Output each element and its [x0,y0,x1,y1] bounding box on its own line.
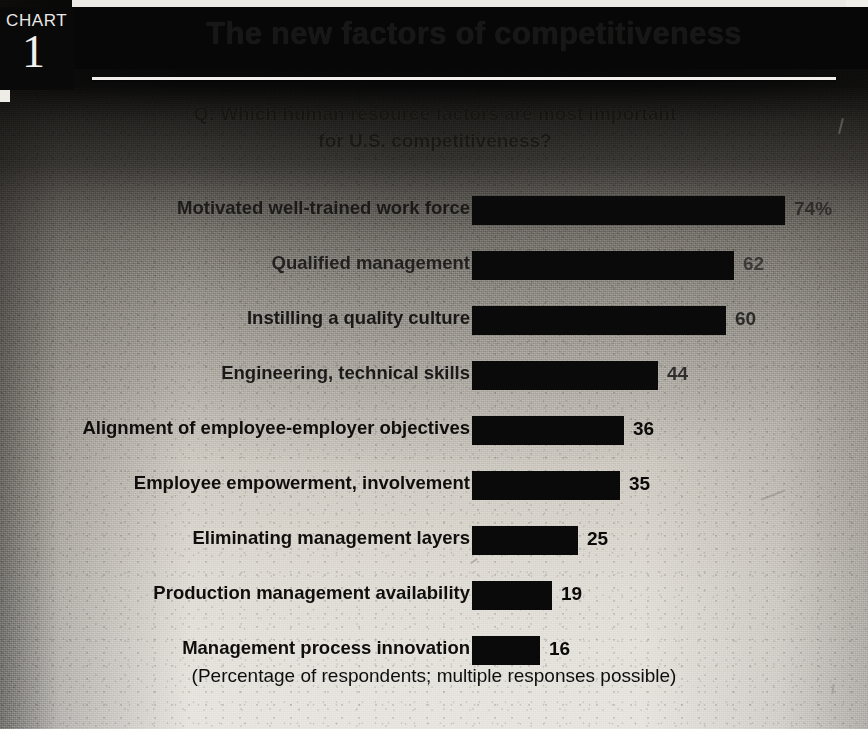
bar-rows: Motivated well-trained work force74%Qual… [0,193,868,688]
bar-value-label: 25 [587,524,608,554]
page-edge-left [0,88,10,102]
bar-value-label: 16 [549,634,570,664]
chart-number-badge: CHART 1 [0,7,74,90]
bar-category-label: Instilling a quality culture [50,303,470,333]
bar [472,636,540,665]
bar [472,306,726,335]
bar-category-label: Motivated well-trained work force [50,193,470,223]
chart-footnote: (Percentage of respondents; multiple res… [0,665,868,687]
bar-value-label: 35 [629,469,650,499]
bar-category-label: Employee empowerment, involvement [50,468,470,498]
bar [472,526,578,555]
bar-value-label: 19 [561,579,582,609]
title-underline-rule [92,77,836,80]
subtitle-line-1: Q: Which human resource factors are most… [120,100,750,127]
bar-value-label: 62 [743,249,764,279]
chart-badge-number: 1 [22,29,45,75]
bar-value-label: 74% [794,194,832,224]
chart-figure: CHART 1 The new factors of competitivene… [0,0,868,729]
bar [472,416,624,445]
bar-row: Eliminating management layers25 [0,523,868,578]
bar-category-label: Production management availability [50,578,470,608]
bar-row: Employee empowerment, involvement35 [0,468,868,523]
bar-category-label: Engineering, technical skills [50,358,470,388]
bar-value-label: 36 [633,414,654,444]
bar [472,581,552,610]
bar-value-label: 44 [667,359,688,389]
bar-row: Qualified management62 [0,248,868,303]
bar-row: Engineering, technical skills44 [0,358,868,413]
bar [472,361,658,390]
bar-value-label: 60 [735,304,756,334]
bar [472,196,785,225]
subtitle-line-2: for U.S. competitiveness? [120,127,750,154]
chart-question-subtitle: Q: Which human resource factors are most… [120,100,750,154]
bar-category-label: Eliminating management layers [50,523,470,553]
page-edge-top [72,0,868,7]
bar-category-label: Qualified management [50,248,470,278]
bar-category-label: Management process innovation [50,633,470,663]
bar-row: Alignment of employee-employer objective… [0,413,868,468]
bar-row: Instilling a quality culture60 [0,303,868,358]
bar-category-label: Alignment of employee-employer objective… [50,413,470,443]
bar-row: Production management availability19 [0,578,868,633]
bar-row: Motivated well-trained work force74% [0,193,868,248]
bar [472,471,620,500]
chart-title: The new factors of competitiveness [104,16,844,52]
bar [472,251,734,280]
